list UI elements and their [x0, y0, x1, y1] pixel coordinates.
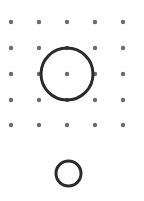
grid-dot-r4-c2 — [37, 98, 41, 102]
grid-dot-r5-c4 — [93, 123, 97, 127]
grid-dot-r4-c4 — [93, 98, 97, 102]
grid-dot-r1-c4 — [93, 20, 97, 24]
grid-dot-r1-c2 — [37, 20, 41, 24]
grid-dot-r5-c3 — [65, 123, 69, 127]
grid-dot-r5-c2 — [37, 123, 41, 127]
figure-canvas — [0, 0, 144, 201]
grid-dot-r3-c1 — [9, 72, 13, 76]
grid-dot-r3-c5 — [121, 72, 125, 76]
grid-dot-r1-c3 — [65, 20, 69, 24]
dot-grid-figure — [0, 0, 144, 201]
grid-dot-r2-c4 — [93, 46, 97, 50]
grid-dot-r5-c5 — [121, 123, 125, 127]
grid-dot-r1-c5 — [121, 20, 125, 24]
grid-dot-r5-c1 — [9, 123, 13, 127]
grid-dot-r4-c5 — [121, 98, 125, 102]
grid-dot-r1-c1 — [9, 20, 13, 24]
grid-dot-r4-c1 — [9, 98, 13, 102]
grid-dot-r2-c2 — [37, 46, 41, 50]
grid-dot-r3-c3 — [65, 72, 69, 76]
grid-dot-r2-c5 — [121, 46, 125, 50]
grid-dot-r2-c1 — [9, 46, 13, 50]
